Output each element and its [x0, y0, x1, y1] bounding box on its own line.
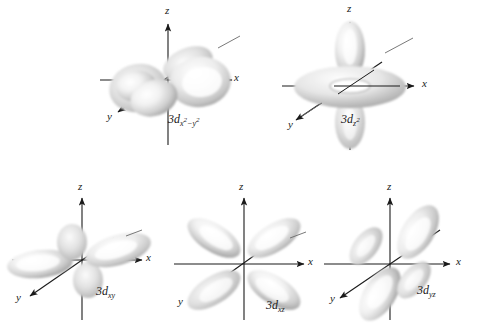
- x-axis-label-4: x: [308, 255, 313, 267]
- leader-line-lower: [302, 103, 322, 116]
- x-axis-label-5: x: [456, 255, 461, 267]
- lobes-3d-yz: [343, 198, 447, 328]
- orbital-3d-xz: [172, 180, 332, 328]
- x-axis-label-1: x: [234, 71, 239, 83]
- orbital-3d-yz: [322, 180, 479, 328]
- orbital-label-3d-yz: 3dyz: [417, 283, 436, 299]
- y-axis-label-3: y: [16, 291, 21, 303]
- orbital-label-3d-z2: 3dz2: [341, 112, 360, 128]
- leader-line-upper: [385, 38, 413, 53]
- orbital-label-3d-x2-y2: 3dx2−y2: [168, 112, 200, 128]
- z-axis-label-3: z: [78, 180, 82, 192]
- lobes-3d-x2-y2: [105, 39, 235, 122]
- z-axis-label-4: z: [239, 180, 243, 192]
- leader-line: [218, 36, 240, 48]
- z-axis-label-1: z: [165, 4, 169, 16]
- y-axis-label-5: y: [330, 292, 335, 304]
- x-axis-label-2: x: [422, 77, 427, 89]
- z-axis-label-2: z: [347, 2, 351, 14]
- x-axis-label-3: x: [146, 251, 151, 263]
- torus-3d-z2: [294, 66, 406, 108]
- z-axis-label-5: z: [387, 180, 391, 192]
- lobe-pos-z-core: [343, 29, 357, 65]
- orbital-label-3d-xy: 3dxy: [96, 284, 115, 300]
- d-orbital-figure: z x y 3dx2−y2: [0, 0, 479, 328]
- y-axis-label-1: y: [107, 110, 112, 122]
- y-axis-label-4: y: [178, 295, 183, 307]
- lobe-upper: [57, 224, 87, 260]
- y-axis-label-2: y: [288, 118, 293, 130]
- orbital-label-3d-xz: 3dxz: [266, 298, 285, 314]
